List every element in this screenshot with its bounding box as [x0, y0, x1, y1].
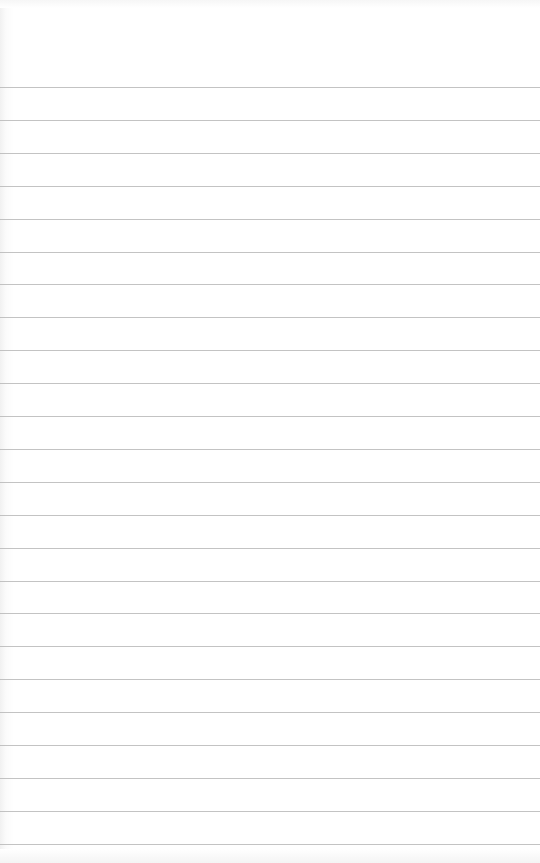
- ruled-line: [0, 317, 540, 318]
- paper-top-edge: [0, 0, 540, 8]
- lined-paper-sheet: [0, 0, 540, 863]
- ruled-line: [0, 679, 540, 680]
- ruled-line: [0, 186, 540, 187]
- ruled-line: [0, 646, 540, 647]
- paper-bottom-edge: [0, 849, 540, 863]
- ruled-line: [0, 383, 540, 384]
- ruled-line: [0, 613, 540, 614]
- ruled-line: [0, 284, 540, 285]
- ruled-line: [0, 350, 540, 351]
- ruled-line: [0, 581, 540, 582]
- ruled-line: [0, 548, 540, 549]
- ruled-line: [0, 449, 540, 450]
- ruled-line: [0, 844, 540, 845]
- ruled-line: [0, 482, 540, 483]
- ruled-line: [0, 811, 540, 812]
- ruled-line: [0, 153, 540, 154]
- ruled-line: [0, 745, 540, 746]
- ruled-line: [0, 120, 540, 121]
- ruled-line: [0, 778, 540, 779]
- ruled-line: [0, 87, 540, 88]
- ruled-line: [0, 416, 540, 417]
- ruled-line: [0, 712, 540, 713]
- ruled-line: [0, 515, 540, 516]
- ruled-line: [0, 219, 540, 220]
- ruled-line: [0, 252, 540, 253]
